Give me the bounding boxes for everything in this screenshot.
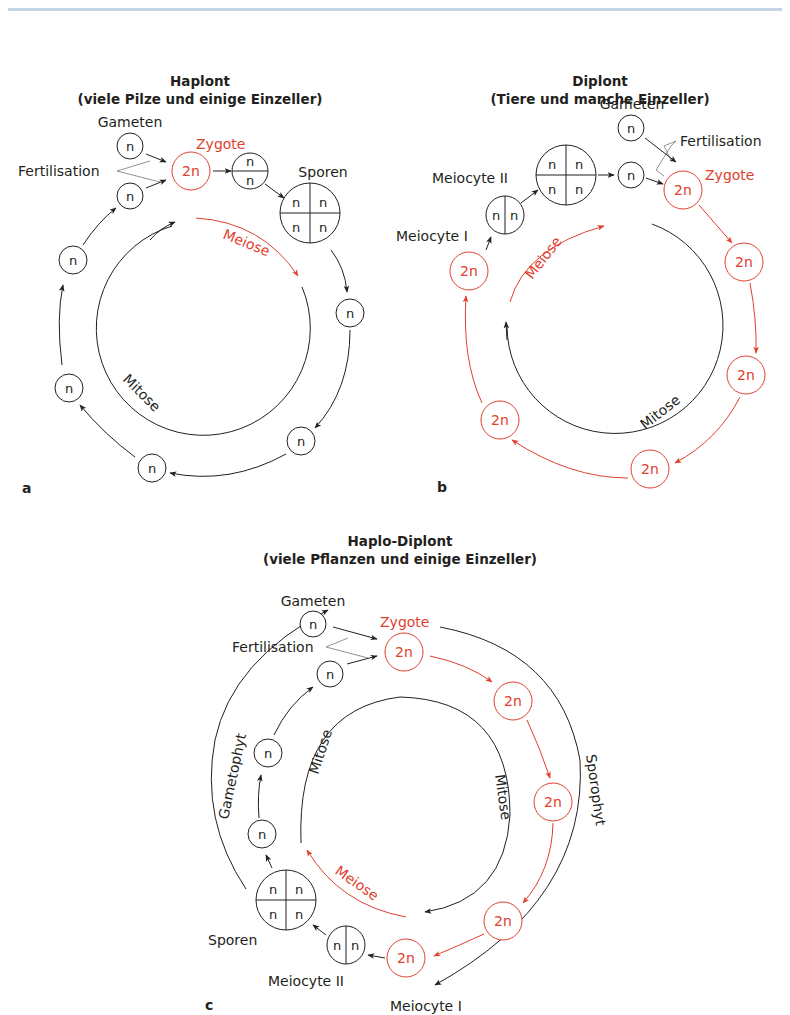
arrow (465, 296, 482, 403)
arrow (512, 440, 628, 478)
mitose-label: Mitose (120, 371, 164, 415)
zygote-label: Zygote (705, 167, 754, 183)
svg-text:n: n (309, 617, 317, 632)
svg-text:n: n (292, 220, 300, 235)
arrow (146, 154, 166, 162)
svg-text:2n: 2n (182, 163, 200, 179)
zygote-label: Zygote (380, 614, 429, 630)
diploid-cell: 2n (725, 243, 763, 281)
arrow (83, 208, 116, 245)
svg-text:2n: 2n (460, 263, 478, 279)
life-cycle-diagrams: Haplont (viele Pilze und einige Einzelle… (0, 0, 790, 1015)
diploid-cell: 2n (387, 939, 425, 977)
arrow (315, 330, 350, 428)
arrow (170, 454, 286, 476)
mitose-arrow (506, 322, 507, 340)
spores-cell: n n n n (256, 870, 316, 930)
svg-text:n: n (492, 208, 500, 223)
gametophyt-label: Gametophyt (215, 731, 249, 820)
panel-c-title: Haplo-Diplont (347, 533, 453, 549)
diploid-cell: 2n (450, 252, 488, 290)
arrow (675, 397, 740, 463)
haploid-cell: n (138, 454, 166, 482)
svg-text:n: n (346, 306, 354, 321)
arrow (274, 687, 313, 735)
svg-text:n: n (627, 121, 635, 136)
gamete-cell: n (300, 611, 326, 637)
svg-text:n: n (65, 381, 73, 396)
arrow (527, 720, 550, 778)
svg-text:2n: 2n (641, 461, 659, 477)
arrow (333, 627, 377, 639)
arrow (331, 250, 347, 292)
svg-text:2n: 2n (491, 412, 509, 428)
diploid-cell: 2n (494, 682, 532, 720)
mitose-left-label: Mitose (306, 727, 335, 776)
gameten-label: Gameten (600, 96, 665, 112)
svg-text:n: n (351, 938, 359, 953)
zygote-cell: 2n (172, 152, 210, 190)
svg-text:n: n (126, 189, 134, 204)
sporophyt-label: Sporophyt (583, 753, 609, 827)
haploid-cell: n (254, 739, 282, 767)
panel-a-haplont: Haplont (viele Pilze und einige Einzelle… (18, 73, 364, 496)
panel-c-haplo-diplont: Haplo-Diplont (viele Pflanzen und einige… (205, 533, 609, 1014)
meiocyte-2-cell: n n (327, 926, 365, 964)
mitose-label: Mitose (637, 391, 683, 432)
gamete-cell: n (117, 133, 143, 159)
arrow (59, 285, 63, 365)
svg-text:n: n (326, 667, 334, 682)
arrow (430, 656, 492, 682)
arrow (750, 283, 756, 353)
svg-text:n: n (295, 882, 303, 897)
fertilisation-bracket (326, 638, 368, 658)
arrow (646, 178, 663, 184)
fertilisation-bracket (117, 161, 160, 182)
meiocyte-1-cell: n n (486, 196, 524, 234)
arrow (265, 184, 284, 198)
sporen-label: Sporen (298, 164, 347, 180)
svg-text:n: n (295, 907, 303, 922)
svg-text:2n: 2n (504, 693, 522, 709)
panel-letter-a: a (22, 480, 31, 496)
gamete-cell: n (618, 115, 644, 141)
svg-text:n: n (627, 168, 635, 183)
svg-text:n: n (69, 253, 77, 268)
svg-text:n: n (510, 208, 518, 223)
mitose-right-label: Mitose (492, 773, 514, 821)
svg-text:n: n (319, 195, 327, 210)
gamete-cell: n (618, 162, 644, 188)
gamete-cell: n (317, 661, 343, 687)
haploid-cell: n (287, 427, 315, 455)
svg-text:n: n (246, 173, 254, 188)
svg-text:2n: 2n (397, 950, 415, 966)
panel-a-subtitle: (viele Pilze und einige Einzeller) (78, 91, 323, 107)
fertilisation-bracket (656, 141, 676, 176)
mitose-arrow (150, 222, 175, 240)
svg-text:n: n (575, 182, 583, 197)
gameten-label: Gameten (98, 114, 163, 130)
arrow (434, 934, 484, 956)
meiose-label: Meiose (332, 862, 381, 903)
sporen-label: Sporen (208, 932, 257, 948)
haploid-cell: n (336, 299, 364, 327)
diploid-cell: 2n (631, 450, 669, 488)
svg-text:n: n (292, 195, 300, 210)
fertilisation-label: Fertilisation (680, 133, 762, 149)
panel-letter-c: c (205, 997, 213, 1013)
panel-b-title: Diplont (572, 73, 628, 89)
zygote-label: Zygote (196, 136, 245, 152)
mitose-arc (301, 697, 510, 912)
mitose-arc (96, 226, 310, 435)
svg-text:n: n (246, 154, 254, 169)
diploid-cell: 2n (534, 783, 572, 821)
arrow (313, 925, 326, 935)
svg-text:n: n (548, 157, 556, 172)
panel-c-subtitle: (viele Pflanzen und einige Einzeller) (263, 551, 537, 567)
diploid-cell: 2n (484, 902, 522, 940)
meiocyte-2-label: Meiocyte II (432, 170, 508, 186)
diploid-cell: 2n (481, 401, 519, 439)
zygote-cell: 2n (385, 633, 423, 671)
arrow (266, 855, 272, 868)
zygote-cell: 2n (664, 171, 702, 209)
